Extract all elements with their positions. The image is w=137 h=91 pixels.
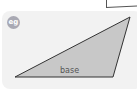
base-label: base <box>60 66 79 75</box>
triangle-diagram <box>0 0 137 91</box>
